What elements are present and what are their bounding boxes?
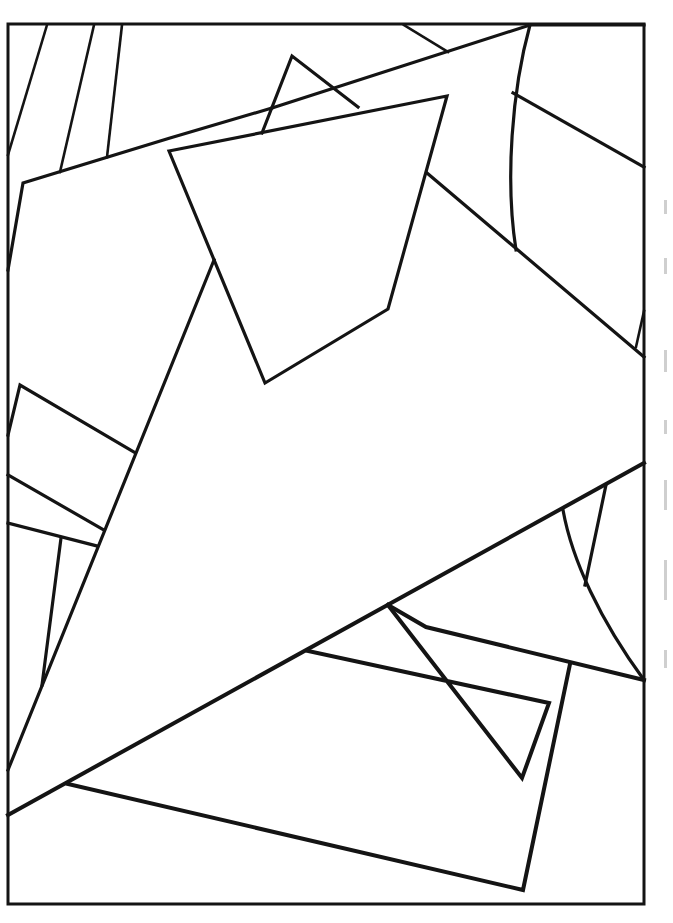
margin-print-marks — [651, 180, 673, 800]
left-stripe-2 — [60, 25, 94, 172]
upper-shapes — [8, 25, 644, 383]
right-curve — [511, 25, 530, 250]
top-diagonal — [404, 25, 448, 52]
right-lower-curve — [563, 510, 644, 680]
outer-rect — [68, 664, 570, 890]
large-quad-top-edge — [8, 108, 272, 270]
inner-kite — [169, 96, 447, 383]
left-rect-upper — [8, 385, 134, 452]
lower-wedge-top — [388, 605, 644, 680]
right-lower-slant — [585, 485, 606, 585]
left-stripe-1 — [8, 25, 47, 155]
margin-mark — [664, 420, 667, 434]
left-rect-low — [8, 523, 97, 546]
left-rectangles — [8, 385, 134, 685]
top-left-stripes — [8, 25, 122, 172]
left-rect-mid — [8, 475, 104, 530]
left-stripe-3 — [107, 25, 122, 157]
margin-mark — [664, 200, 667, 214]
margin-mark — [664, 480, 667, 510]
margin-mark — [664, 560, 667, 600]
margin-mark — [664, 650, 667, 668]
right-diagonal — [513, 93, 644, 167]
large-quad-to-corner — [272, 25, 644, 108]
lower-right-shapes — [68, 485, 644, 890]
coloring-page-artwork — [0, 0, 673, 923]
margin-mark — [664, 350, 667, 372]
big-triangle-left-edge — [8, 260, 214, 770]
big-triangle-upper-edge — [427, 173, 644, 357]
margin-mark — [664, 258, 667, 274]
big-triangle — [8, 173, 644, 815]
